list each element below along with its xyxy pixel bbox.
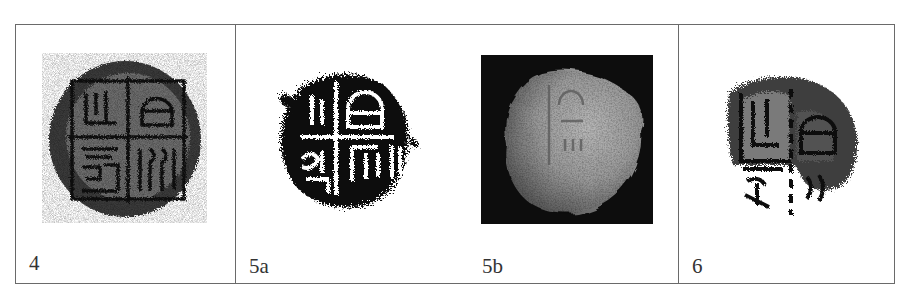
coin-rubbing-icon (709, 65, 869, 225)
panel-4: 4 (16, 25, 236, 283)
coin-photo-icon (481, 55, 653, 224)
panel-label-5b: 5b (482, 256, 503, 277)
panel-5: 5a (236, 25, 679, 283)
coin-rubbing-icon (266, 55, 421, 225)
figure-plate: 4 (15, 24, 895, 284)
panel-label-6: 6 (692, 256, 703, 277)
panel-label-5a: 5a (249, 256, 269, 277)
coin-photo-5b (481, 55, 653, 224)
panel-label-4: 4 (29, 253, 40, 274)
coin-rubbing-5a (266, 55, 421, 225)
panel-6: 6 (679, 25, 894, 283)
coin-rubbing-4 (42, 53, 207, 223)
coin-rubbing-6 (709, 65, 869, 225)
coin-rubbing-icon (42, 53, 207, 223)
